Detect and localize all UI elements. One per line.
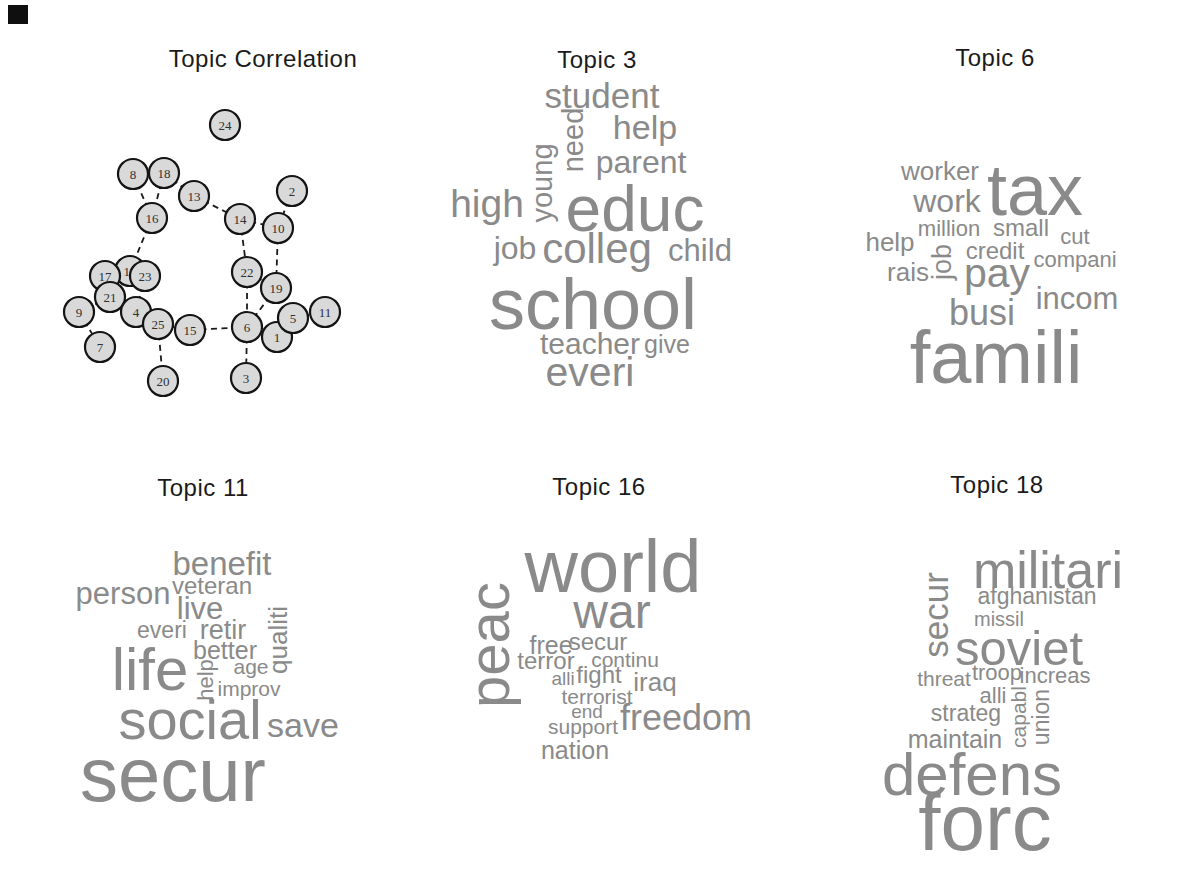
word-qualiti: qualiti (265, 606, 291, 674)
topic-node-10: 10 (263, 213, 293, 243)
node-label-9: 9 (76, 305, 83, 320)
node-label-21: 21 (104, 290, 117, 305)
word-job: job (494, 232, 537, 264)
node-label-14: 14 (234, 212, 248, 227)
topic-node-20: 20 (148, 366, 178, 396)
word-iraq: iraq (633, 669, 676, 695)
topic-node-9: 9 (64, 297, 94, 327)
node-label-7: 7 (97, 340, 104, 355)
word-age: age (233, 656, 268, 677)
topic-node-3: 3 (231, 363, 261, 393)
word-work: work (913, 185, 981, 217)
node-label-13: 13 (188, 189, 201, 204)
word-capabl: capabl (1008, 686, 1029, 748)
word-everi: everi (546, 352, 635, 393)
topic-node-21: 21 (95, 282, 125, 312)
word-threat: threat (917, 668, 971, 689)
word-help: help (865, 229, 914, 255)
topic-node-2: 2 (277, 176, 307, 206)
word-famili: famili (910, 321, 1083, 395)
node-label-5: 5 (290, 311, 297, 326)
word-cut: cut (1060, 226, 1089, 248)
word-freedom: freedom (620, 700, 752, 736)
topic-node-6: 6 (232, 312, 262, 342)
word-incom: incom (1036, 283, 1119, 314)
topic-node-7: 7 (85, 332, 115, 362)
word-fight: fight (576, 663, 621, 687)
word-job: job (929, 244, 956, 280)
word-young: young (528, 143, 557, 222)
word-give: give (644, 332, 690, 357)
word-secur: secur (80, 737, 266, 813)
topic-node-14: 14 (225, 204, 255, 234)
topic-node-24: 24 (210, 110, 240, 140)
title-topic-correlation: Topic Correlation (169, 45, 358, 73)
node-label-10: 10 (272, 221, 285, 236)
word-need: need (559, 108, 588, 173)
word-afghanistan: afghanistan (978, 585, 1097, 608)
topic-node-19: 19 (261, 273, 291, 303)
word-person: person (76, 578, 171, 609)
node-label-24: 24 (219, 118, 233, 133)
node-label-1: 1 (274, 330, 281, 345)
title-topic-16: Topic 16 (552, 473, 645, 501)
word-rais: rais (887, 259, 929, 285)
node-label-8: 8 (130, 167, 137, 182)
word-secur: secur (918, 572, 953, 658)
word-high: high (450, 184, 524, 223)
word-union: union (1030, 689, 1053, 745)
word-help: help (613, 110, 677, 144)
word-pay: pay (964, 253, 1030, 294)
topic-node-15: 15 (175, 315, 205, 345)
node-label-6: 6 (244, 320, 251, 335)
word-worker: worker (901, 158, 979, 184)
node-label-22: 22 (241, 265, 254, 280)
node-label-19: 19 (270, 281, 283, 296)
node-label-2: 2 (289, 184, 296, 199)
topic-node-18: 18 (149, 158, 179, 188)
word-strateg: strateg (931, 702, 1001, 725)
node-label-23: 23 (139, 269, 152, 284)
title-topic-11: Topic 11 (157, 474, 249, 502)
node-label-15: 15 (184, 323, 197, 338)
topic-node-25: 25 (143, 309, 173, 339)
topic-node-11: 11 (310, 297, 340, 327)
title-topic-6: Topic 6 (955, 44, 1035, 72)
word-troop: troop (972, 662, 1022, 684)
topic-node-16: 16 (137, 203, 167, 233)
word-compani: compani (1033, 249, 1116, 271)
node-label-16: 16 (146, 211, 160, 226)
node-label-11: 11 (319, 305, 332, 320)
node-label-4: 4 (133, 305, 140, 320)
node-label-20: 20 (157, 374, 170, 389)
topic-node-23: 23 (130, 261, 160, 291)
title-topic-3: Topic 3 (557, 46, 637, 74)
word-forc: forc (918, 783, 1051, 863)
word-child: child (668, 235, 732, 266)
topic-node-5: 5 (278, 303, 308, 333)
topic-node-22: 22 (232, 257, 262, 287)
title-topic-18: Topic 18 (950, 471, 1043, 499)
node-label-25: 25 (152, 317, 165, 332)
node-label-18: 18 (158, 166, 171, 181)
word-increas: increas (1020, 665, 1091, 687)
word-save: save (267, 708, 339, 742)
topic-node-8: 8 (118, 159, 148, 189)
word-nation: nation (541, 738, 609, 763)
node-label-3: 3 (243, 371, 250, 386)
topic-node-13: 13 (179, 181, 209, 211)
word-peac: peac (460, 582, 518, 708)
word-support: support (548, 716, 618, 737)
